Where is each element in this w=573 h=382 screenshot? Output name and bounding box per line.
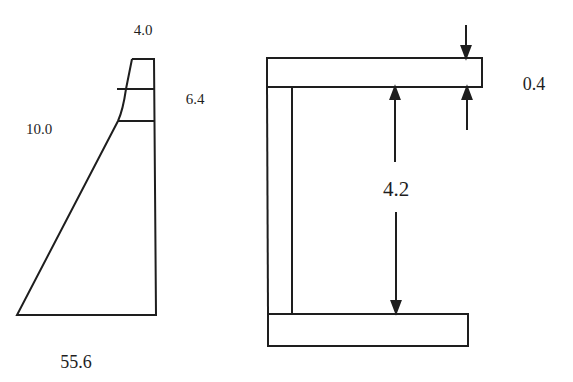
tapered-wall-section — [17, 59, 156, 315]
clear-height-label: 4.2 — [383, 177, 409, 202]
arrowhead-up-icon — [463, 87, 472, 99]
upper-height-label: 6.4 — [186, 91, 205, 108]
flange-thickness-label: 0.4 — [523, 74, 546, 95]
diagram-svg — [0, 0, 573, 382]
arrowhead-down-icon — [462, 46, 471, 58]
top-flange — [267, 58, 482, 87]
mid-height-label: 10.0 — [26, 121, 52, 138]
channel-section — [267, 58, 482, 346]
bottom-flange — [268, 314, 468, 346]
web-outer-line — [267, 87, 268, 314]
arrowhead-up-icon — [391, 87, 400, 99]
arrowhead-down-icon — [392, 301, 401, 313]
flange-thickness-dimension — [462, 25, 472, 130]
wall-outline — [17, 59, 156, 315]
diagram-canvas: 4.0 6.4 10.0 55.6 4.2 0.4 — [0, 0, 573, 382]
base-width-label: 55.6 — [60, 352, 92, 373]
top-width-label: 4.0 — [134, 22, 153, 39]
